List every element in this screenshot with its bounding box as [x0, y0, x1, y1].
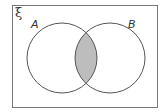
venn-diagram: ξ A B — [0, 0, 166, 112]
set-b-label: B — [128, 18, 136, 31]
universal-set-label: ξ — [15, 5, 22, 20]
set-a-label: A — [30, 18, 39, 31]
